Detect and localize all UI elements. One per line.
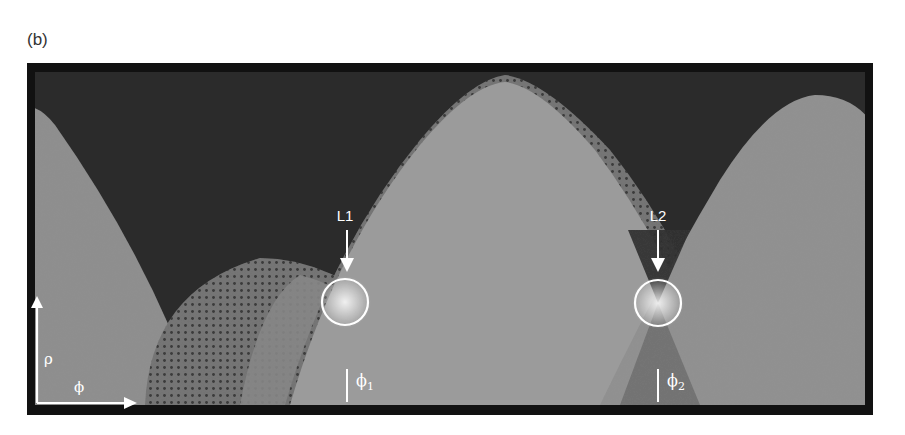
hough-space-figure: L1 ϕ1 L2 ϕ2 ρ ϕ bbox=[0, 0, 905, 435]
l1-label: L1 bbox=[337, 207, 354, 224]
l2-label: L2 bbox=[650, 207, 667, 224]
l1-peak-glow bbox=[319, 276, 371, 328]
phi-axis-label: ϕ bbox=[74, 378, 84, 396]
l2-peak-glow bbox=[632, 277, 684, 329]
rho-axis-label: ρ bbox=[44, 350, 53, 368]
